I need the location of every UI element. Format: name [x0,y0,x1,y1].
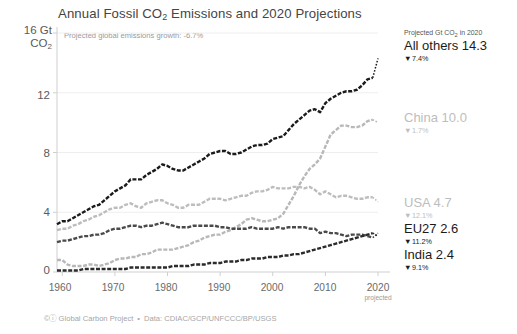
x-tick-1990: 1990 [196,282,242,293]
down-triangle-icon: ▼ [404,211,412,220]
credit-line: ©ⓘGlobal Carbon Project•Data: CDIAC/GCP/… [44,312,277,323]
legend-item-usa: USA 4.7 ▼12.1% [404,196,452,220]
legend-header-pre: Projected Gt CO [404,29,455,36]
x-tick-1960: 1960 [37,282,83,293]
legend-change-all-others: ▼7.4% [404,54,487,63]
carbon-emissions-chart: Annual Fossil CO2 Emissions and 2020 Pro… [0,0,517,334]
x-tick-2020: 2020 [355,282,401,293]
legend-item-china: China 10.0 ▼1.7% [404,111,467,135]
y-tick-4: 4 [20,206,50,218]
down-triangle-icon: ▼ [404,263,412,272]
legend-label-china: China 10.0 [404,111,467,125]
legend-change-value-eu27: 11.2% [412,237,432,246]
legend-label-usa: USA 4.7 [404,196,452,210]
legend-item-eu27: EU27 2.6 ▼11.2% [404,222,458,246]
creative-commons-icon: ©ⓘ [44,314,57,323]
down-triangle-icon: ▼ [404,237,412,246]
legend-header-post: in 2020 [458,29,483,36]
x-tick-2020-note: projected [355,294,401,301]
x-tick-1970: 1970 [90,282,136,293]
legend-change-value-all-others: 7.4% [412,54,428,63]
y-tick-8: 8 [20,147,50,159]
legend-change-eu27: ▼11.2% [404,237,458,246]
legend-change-india: ▼9.1% [404,263,454,272]
credit-org: Global Carbon Project [59,314,134,323]
legend-change-value-china: 1.7% [412,126,428,135]
legend-item-india: India 2.4 ▼9.1% [404,248,454,272]
x-tick-2000: 2000 [249,282,295,293]
legend-label-all-others: All others 14.3 [404,39,487,53]
credit-sources: Data: CDIAC/GCP/UNFCCC/BP/USGS [144,314,277,323]
legend-change-china: ▼1.7% [404,126,467,135]
x-tick-2010: 2010 [302,282,348,293]
legend-change-value-india: 9.1% [412,263,428,272]
legend-item-all-others: Projected Gt CO2 in 2020 All others 14.3… [404,29,487,63]
credit-separator: • [137,314,140,323]
legend-label-eu27: EU27 2.6 [404,222,458,236]
legend-header: Projected Gt CO2 in 2020 [404,29,487,38]
down-triangle-icon: ▼ [404,54,412,63]
y-tick-0: 0 [20,264,50,276]
legend-label-india: India 2.4 [404,248,454,262]
down-triangle-icon: ▼ [404,126,412,135]
legend-change-usa: ▼12.1% [404,211,452,220]
x-tick-1980: 1980 [143,282,189,293]
legend-change-value-usa: 12.1% [412,211,432,220]
y-tick-12: 12 [20,89,50,101]
